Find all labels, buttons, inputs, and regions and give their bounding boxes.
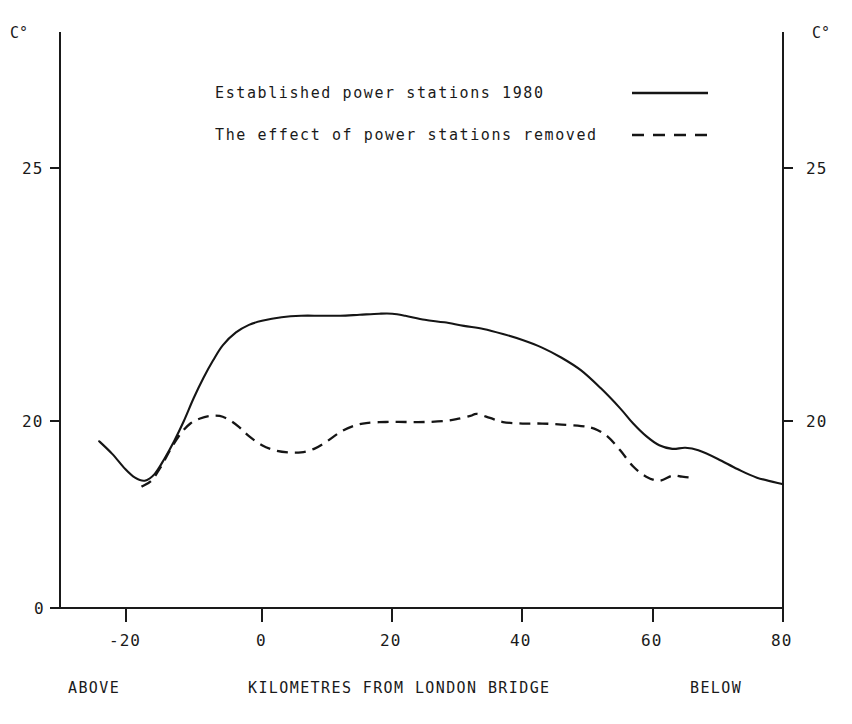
y-axis-unit-left: C° bbox=[10, 24, 28, 42]
y-tick-label-left-0: 0 bbox=[34, 599, 45, 618]
y-axis-unit-right: C° bbox=[812, 24, 830, 42]
legend-label-power-stations-removed: The effect of power stations removed bbox=[215, 126, 598, 144]
x-tick-label-60: 60 bbox=[641, 631, 662, 650]
legend-label-established-power-stations: Established power stations 1980 bbox=[215, 84, 545, 102]
x-tick-label-20: 20 bbox=[380, 631, 401, 650]
footer-label-below: BELOW bbox=[690, 679, 742, 697]
x-tick-label-0: 0 bbox=[256, 631, 267, 650]
series-line-established-power-stations bbox=[99, 314, 783, 485]
chart-plot-area bbox=[0, 0, 852, 724]
y-tick-label-left-25: 25 bbox=[22, 159, 43, 178]
series-line-power-stations-removed bbox=[142, 414, 692, 487]
chart-container: C° C° 25 20 0 25 20 -20 0 20 40 60 80 Es… bbox=[0, 0, 852, 724]
y-tick-label-right-25: 25 bbox=[806, 159, 827, 178]
footer-label-above: ABOVE bbox=[68, 679, 120, 697]
y-tick-label-right-20: 20 bbox=[806, 412, 827, 431]
y-tick-label-left-20: 20 bbox=[22, 412, 43, 431]
x-tick-label-80: 80 bbox=[771, 631, 792, 650]
x-tick-label-40: 40 bbox=[510, 631, 531, 650]
x-tick-label--20: -20 bbox=[109, 631, 141, 650]
footer-label-x-axis-title: KILOMETRES FROM LONDON BRIDGE bbox=[248, 679, 551, 697]
